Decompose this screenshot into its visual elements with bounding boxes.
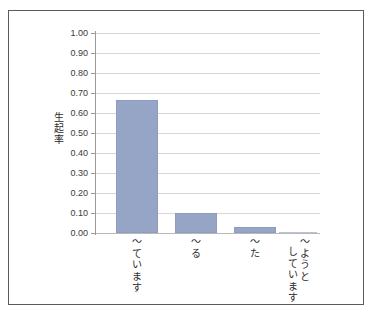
bar-ta — [234, 227, 276, 233]
y-tick-label: 0.30 — [46, 169, 88, 178]
gridline-0-70 — [96, 93, 320, 94]
y-axis-tick-labels: 1.00 0.90 0.80 0.70 0.60 0.50 0.40 0.30 … — [40, 0, 88, 321]
bar-ru — [175, 213, 217, 233]
x-label-column: しています — [287, 246, 299, 304]
y-tick-label: 0.70 — [46, 89, 88, 98]
chart-figure: 1.00 0.90 0.80 0.70 0.60 0.50 0.40 0.30 … — [0, 0, 374, 321]
x-label-column: 〜ようと — [299, 236, 311, 282]
plot-area — [96, 33, 320, 233]
bar-te-imasu — [116, 100, 158, 233]
y-tick-label: 0.20 — [46, 189, 88, 198]
x-label-column: 〜ています — [131, 236, 143, 294]
gridline-0-80 — [96, 73, 320, 74]
y-tick-label: 0.80 — [46, 69, 88, 78]
x-label-column: 〜る — [190, 236, 202, 259]
gridline-0-90 — [96, 53, 320, 54]
y-tick-label: 0.10 — [46, 209, 88, 218]
y-tick-label: 0.90 — [46, 49, 88, 58]
x-axis-category-labels: 〜ています 〜る 〜た しています〜ようと — [96, 236, 320, 320]
x-label-ru: 〜る — [182, 236, 210, 259]
bar-you-to-shite-imasu — [279, 232, 317, 233]
x-label-ta: 〜た — [241, 236, 269, 259]
gridline-1-00 — [96, 33, 320, 34]
y-tick-label: 0.00 — [46, 229, 88, 238]
gridline-0-00 — [96, 233, 320, 234]
y-axis-title: 生起率 — [52, 112, 66, 145]
x-label-you-to-shite-imasu: しています〜ようと — [282, 236, 316, 304]
y-tick-label: 1.00 — [46, 29, 88, 38]
y-tick-label: 0.40 — [46, 149, 88, 158]
x-label-te-imasu: 〜ています — [123, 236, 151, 294]
x-label-column: 〜た — [249, 236, 261, 259]
